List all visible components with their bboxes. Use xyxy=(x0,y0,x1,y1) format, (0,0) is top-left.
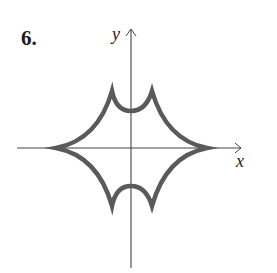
x-axis-label: x xyxy=(236,151,244,172)
plot-area xyxy=(0,0,277,273)
figure: 6. y x xyxy=(0,0,277,273)
y-axis-label: y xyxy=(112,24,120,45)
